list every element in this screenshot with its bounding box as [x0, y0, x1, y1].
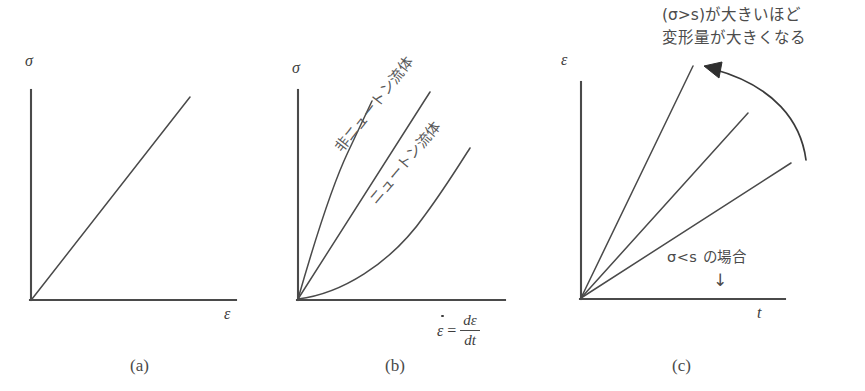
- panel-b-y-axis-label: σ: [292, 60, 300, 76]
- panel-b-x-axis-label-equation: ε = dε dt: [437, 312, 480, 349]
- panel-c-annotation-arrow: [713, 69, 806, 160]
- panel-a-y-axis-label: σ: [25, 53, 33, 69]
- figure-drawing-layer: [0, 0, 865, 391]
- panel-c-caption: (c): [672, 357, 691, 374]
- fraction-denominator: dt: [460, 331, 479, 349]
- panel-c-annotation-arrowhead: [704, 62, 722, 78]
- panel-c-annotation-line-1: (σ>s)が大きいほど: [662, 5, 801, 26]
- panel-a-graph: [30, 90, 236, 300]
- derivative-fraction: dε dt: [460, 312, 479, 349]
- equals-sign: =: [447, 322, 456, 340]
- panel-b-graph: [297, 90, 505, 300]
- figure-root: σ ε (a) σ 非ニュートン流体 ニュートン流体 ε = dε dt (b)…: [0, 0, 865, 391]
- panel-b-curve-shear-thickening: [298, 148, 470, 299]
- strain-rate-symbol: ε: [437, 322, 443, 340]
- panel-c-annotation-line-2: 変形量が大きくなる: [662, 28, 806, 49]
- panel-c-x-axis-label: t: [757, 305, 761, 321]
- panel-c-down-arrow-icon: ↓: [713, 270, 727, 290]
- panel-c-lower-label: σ<s の場合: [667, 250, 746, 265]
- panel-a-x-axis-label: ε: [224, 306, 230, 322]
- fraction-numerator: dε: [460, 312, 479, 331]
- panel-b-caption: (b): [385, 357, 405, 374]
- panel-a-elastic-line: [32, 97, 190, 299]
- panel-c-y-axis-label: ε: [561, 52, 567, 68]
- panel-a-caption: (a): [130, 357, 149, 374]
- panel-c-line-low-stress: [581, 163, 791, 298]
- overdot-mark: [441, 315, 444, 318]
